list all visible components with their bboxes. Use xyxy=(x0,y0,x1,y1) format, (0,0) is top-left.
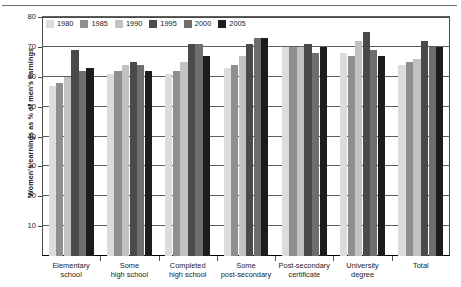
x-axis-category-label: Universitydegree xyxy=(333,261,391,280)
bar xyxy=(188,44,195,256)
y-tick-mark-40 xyxy=(38,137,42,138)
bar xyxy=(165,74,172,256)
legend-swatch xyxy=(218,20,226,28)
bar xyxy=(282,47,289,256)
x-axis-category-label: Post-secondarycertificate xyxy=(275,261,333,280)
legend-item: 1985 xyxy=(80,19,107,28)
bar xyxy=(231,65,238,256)
y-tick-mark-10 xyxy=(38,226,42,227)
y-tick-label-70: 70 xyxy=(8,42,36,51)
bar xyxy=(114,71,121,256)
bar xyxy=(203,56,210,256)
x-label-line: post-secondary xyxy=(221,270,272,279)
bar xyxy=(145,71,152,256)
y-tick-mark-50 xyxy=(38,107,42,108)
bar xyxy=(137,65,144,256)
x-label-line: Some xyxy=(236,261,255,270)
bar xyxy=(56,83,63,256)
bar xyxy=(71,50,78,256)
legend-label: 1980 xyxy=(57,19,73,28)
y-tick-mark-30 xyxy=(38,166,42,167)
bar-group xyxy=(275,17,333,256)
x-axis-tick-labels: ElementaryschoolSomehigh schoolCompleted… xyxy=(42,261,450,285)
x-axis-category-label: Elementaryschool xyxy=(42,261,100,280)
bar xyxy=(421,41,428,256)
bar xyxy=(239,56,246,256)
bar xyxy=(224,68,231,256)
chart-legend: 198019851990199520002005 xyxy=(46,19,246,28)
x-label-line: Some xyxy=(120,261,139,270)
x-label-line: high school xyxy=(111,270,148,279)
x-label-line: high school xyxy=(169,270,206,279)
y-tick-mark-80 xyxy=(38,17,42,18)
legend-swatch xyxy=(115,20,123,28)
legend-item: 1995 xyxy=(149,19,176,28)
legend-item: 2000 xyxy=(184,19,211,28)
bar xyxy=(79,71,86,256)
bar xyxy=(348,56,355,256)
x-label-line: Total xyxy=(413,261,429,270)
bar-group xyxy=(333,17,391,256)
bar xyxy=(122,65,129,256)
y-tick-mark-60 xyxy=(38,77,42,78)
y-tick-label-80: 80 xyxy=(8,12,36,21)
legend-label: 1990 xyxy=(126,19,142,28)
bar xyxy=(49,86,56,256)
bar xyxy=(406,62,413,256)
bar xyxy=(413,59,420,256)
legend-label: 2000 xyxy=(195,19,211,28)
x-label-line: University xyxy=(346,261,378,270)
header-divider xyxy=(2,5,457,6)
y-tick-label-60: 60 xyxy=(8,72,36,81)
legend-label: 1985 xyxy=(91,19,107,28)
bar xyxy=(289,47,296,256)
legend-label: 1995 xyxy=(160,19,176,28)
bar-series-container xyxy=(42,17,450,256)
y-tick-label-50: 50 xyxy=(8,102,36,111)
bar xyxy=(180,62,187,256)
bar xyxy=(312,53,319,256)
plot-area xyxy=(42,17,450,256)
bar xyxy=(355,41,362,256)
bar xyxy=(370,50,377,256)
x-label-line: degree xyxy=(351,270,374,279)
legend-swatch xyxy=(149,20,157,28)
x-label-line: certificate xyxy=(288,270,320,279)
y-tick-mark-70 xyxy=(38,47,42,48)
bar xyxy=(320,47,327,256)
y-tick-label-20: 20 xyxy=(8,191,36,200)
bar xyxy=(398,65,405,256)
bar xyxy=(378,56,385,256)
legend-item: 2005 xyxy=(218,19,245,28)
y-tick-label-40: 40 xyxy=(8,132,36,141)
bar xyxy=(86,68,93,256)
y-tick-label-30: 30 xyxy=(8,161,36,170)
x-axis-category-label: Total xyxy=(392,261,450,270)
x-label-line: Completed xyxy=(170,261,206,270)
bar xyxy=(363,32,370,256)
bar xyxy=(246,44,253,256)
legend-item: 1980 xyxy=(46,19,73,28)
y-tick-mark-20 xyxy=(38,196,42,197)
x-label-line: school xyxy=(60,270,81,279)
x-axis-category-label: Somehigh school xyxy=(100,261,158,280)
y-axis-title: Women's earnings as % of men's earnings xyxy=(26,33,35,213)
bar xyxy=(130,62,137,256)
bar xyxy=(173,71,180,256)
x-axis-category-label: Somepost-secondary xyxy=(217,261,275,280)
x-axis-category-label: Completedhigh school xyxy=(159,261,217,280)
bar xyxy=(64,77,71,256)
legend-swatch xyxy=(80,20,88,28)
bar xyxy=(254,38,261,256)
legend-label: 2005 xyxy=(229,19,245,28)
bar-group xyxy=(100,17,158,256)
x-label-line: Post-secondary xyxy=(279,261,330,270)
bar xyxy=(340,53,347,256)
bar xyxy=(297,47,304,256)
bar xyxy=(107,74,114,256)
legend-swatch xyxy=(46,20,54,28)
y-tick-label-10: 10 xyxy=(8,221,36,230)
bar xyxy=(261,38,268,256)
bar xyxy=(195,44,202,256)
legend-item: 1990 xyxy=(115,19,142,28)
